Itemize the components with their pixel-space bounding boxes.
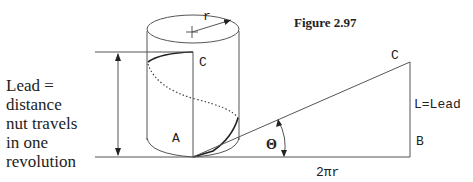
point-b-triangle: B bbox=[416, 134, 424, 149]
angle-theta-label: Θ bbox=[266, 137, 277, 152]
cylinder: r C A bbox=[147, 9, 239, 157]
base-2pir-label: 2πr bbox=[316, 165, 339, 180]
lead-dimension bbox=[95, 52, 410, 157]
helix-top-segment bbox=[148, 52, 193, 62]
helix-bottom-segment bbox=[193, 118, 238, 157]
radius-label: r bbox=[203, 9, 211, 24]
unrolled-triangle: Θ C L=Lead B 2πr bbox=[193, 48, 461, 180]
lead-caption: Lead = distance nut travels in one revol… bbox=[6, 76, 77, 171]
lead-arrow-down-head bbox=[115, 148, 121, 156]
figure-title: Figure 2.97 bbox=[294, 15, 357, 30]
lead-caption-line: in one bbox=[6, 133, 77, 152]
cylinder-top-ellipse bbox=[147, 15, 239, 43]
lead-caption-line: distance bbox=[6, 95, 77, 114]
lead-side-label: L=Lead bbox=[414, 97, 461, 112]
lead-caption-line: nut travels bbox=[6, 114, 77, 133]
point-c-cylinder: C bbox=[199, 55, 207, 70]
angle-arrow-bottom bbox=[281, 150, 287, 157]
lead-caption-line: revolution bbox=[6, 152, 77, 171]
point-a-cylinder: A bbox=[172, 131, 180, 146]
lead-caption-line: Lead = bbox=[6, 76, 77, 95]
radius-arrow bbox=[192, 20, 231, 32]
lead-arrow-up-head bbox=[115, 53, 121, 61]
point-c-triangle: C bbox=[391, 48, 399, 63]
